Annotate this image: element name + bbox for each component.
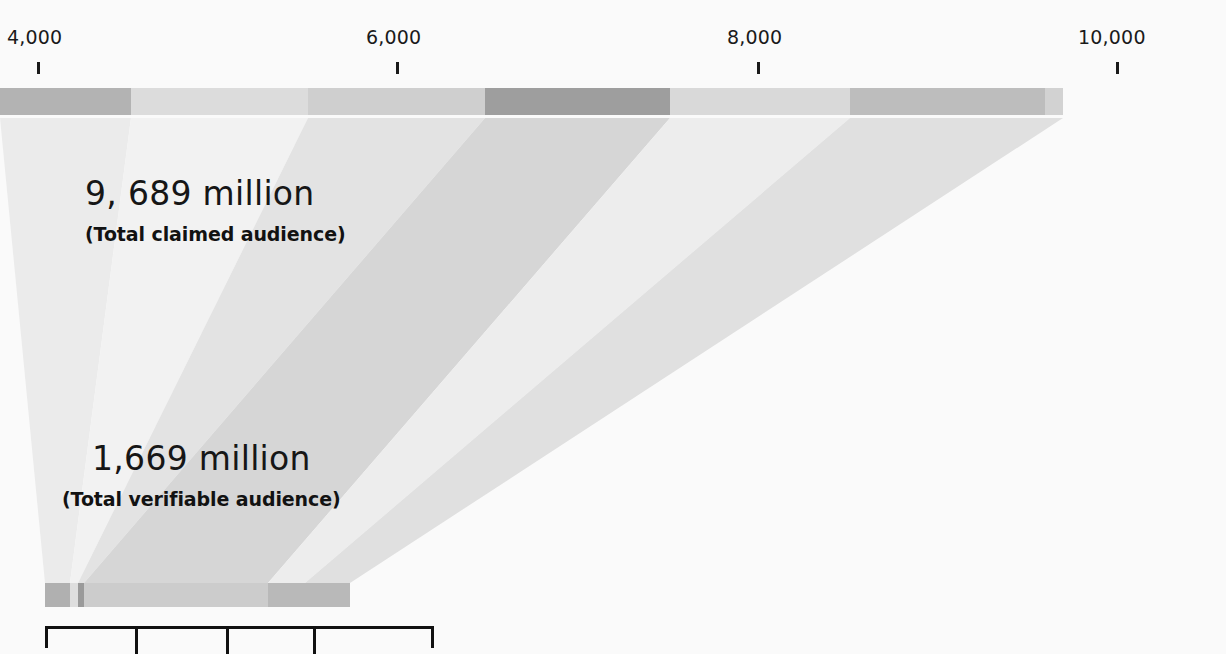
category-bracket <box>45 626 434 654</box>
bar-segment[interactable] <box>268 583 350 607</box>
bracket-divider <box>135 626 138 654</box>
claimed-audience-description: (Total claimed audience) <box>85 223 346 245</box>
bar-segment[interactable] <box>670 88 850 115</box>
verifiable-audience-value: 1,669 million <box>92 441 341 477</box>
axis-tick-label-10000: 10,000 <box>1078 26 1146 48</box>
axis-top: 4,000 6,000 8,000 10,000 <box>0 0 1226 88</box>
bar-segment[interactable] <box>1045 88 1063 115</box>
bar-segment[interactable] <box>84 583 268 607</box>
funnel-chart: 4,000 6,000 8,000 10,000 9, 689 million … <box>0 0 1226 654</box>
claimed-audience-value: 9, 689 million <box>85 176 346 212</box>
verifiable-audience-bar[interactable] <box>45 583 350 607</box>
bar-segment[interactable] <box>485 88 670 115</box>
bracket-divider <box>226 626 229 654</box>
bar-segment[interactable] <box>70 583 78 607</box>
bar-segment[interactable] <box>45 583 70 607</box>
bar-segment[interactable] <box>0 88 131 115</box>
bracket-top-rule <box>45 626 434 629</box>
verifiable-audience-callout: 1,669 million (Total verifiable audience… <box>92 441 341 510</box>
bracket-end-left <box>45 626 48 648</box>
axis-tick-mark-4000 <box>37 62 40 74</box>
axis-tick-mark-8000 <box>757 62 760 74</box>
claimed-audience-callout: 9, 689 million (Total claimed audience) <box>85 176 346 245</box>
axis-tick-label-8000: 8,000 <box>727 26 782 48</box>
bar-segment[interactable] <box>131 88 308 115</box>
bar-segment[interactable] <box>308 88 485 115</box>
axis-tick-mark-6000 <box>396 62 399 74</box>
claimed-audience-bar[interactable] <box>0 88 1063 115</box>
axis-tick-mark-10000 <box>1116 62 1119 74</box>
verifiable-audience-description: (Total verifiable audience) <box>62 488 341 510</box>
bar-segment[interactable] <box>850 88 1045 115</box>
bracket-divider <box>313 626 316 654</box>
axis-tick-label-6000: 6,000 <box>366 26 421 48</box>
axis-tick-label-4000: 4,000 <box>7 26 62 48</box>
bracket-end-right <box>431 626 434 648</box>
